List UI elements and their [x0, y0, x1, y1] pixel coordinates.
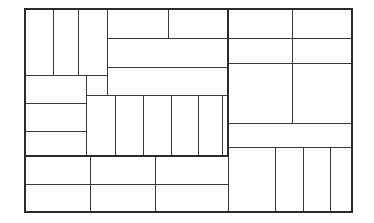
figure-background [0, 0, 374, 223]
packing-figure [0, 0, 374, 223]
packing-diagram-svg [0, 0, 374, 223]
